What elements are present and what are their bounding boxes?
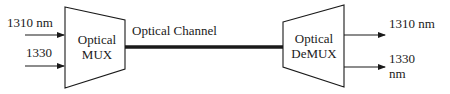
input-label-1330: 1330: [26, 46, 52, 60]
output-label-1330: 1330: [389, 52, 415, 66]
demux-label-line1: Optical: [286, 32, 342, 46]
mux-label-line1: Optical: [72, 33, 122, 47]
demux-label-line2: DeMUX: [286, 47, 342, 61]
channel-label: Optical Channel: [132, 24, 217, 38]
input-label-1310: 1310 nm: [7, 16, 53, 30]
wdm-diagram: [0, 0, 450, 94]
output-label-1310: 1310 nm: [389, 17, 435, 31]
mux-label-line2: MUX: [72, 48, 122, 62]
output-label-1330-unit: nm: [389, 67, 406, 81]
